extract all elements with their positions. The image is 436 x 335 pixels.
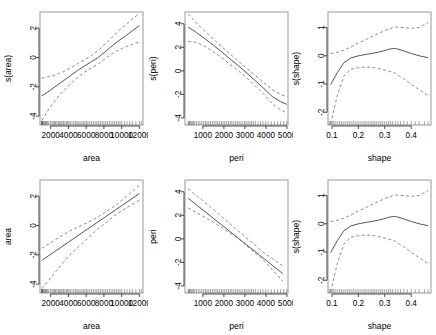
panel-r2c2-fit xyxy=(188,198,283,273)
y-tick-label: -1 xyxy=(317,248,326,256)
panel-r1c3-upper-ci xyxy=(331,22,429,53)
y-tick-label: -4 xyxy=(29,112,38,120)
rug-marks xyxy=(42,121,141,125)
y-axis-title: s(shape) xyxy=(291,220,301,254)
y-tick-label: -4 xyxy=(174,114,183,122)
panel-r1c2-fit xyxy=(188,27,287,104)
x-tick-label: 3000 xyxy=(236,299,255,308)
panel-r2c1: 20004000600080001000012000-4-202areaarea xyxy=(0,168,148,335)
x-tick-label: 0.4 xyxy=(405,299,417,308)
x-axis-title: shape xyxy=(368,153,392,163)
y-tick-label: 4 xyxy=(174,189,183,194)
rug-marks xyxy=(329,121,428,125)
y-axis-title: s(shape) xyxy=(291,52,301,86)
panel-r2c1-upper-ci xyxy=(42,185,140,248)
x-axis-title: area xyxy=(83,321,100,331)
x-tick-label: 3000 xyxy=(236,131,255,140)
y-tick-label: 2 xyxy=(29,25,38,30)
y-tick-label: -4 xyxy=(29,280,38,288)
x-tick-label: 0.2 xyxy=(353,131,365,140)
x-axis-title: peri xyxy=(229,321,243,331)
panel-r2c3-canvas: 0.10.20.30.4-2-101shapes(shape) xyxy=(288,168,436,335)
panel-r2c3-upper-ci xyxy=(331,190,429,221)
x-tick-label: 4000 xyxy=(59,299,78,308)
panel-r1c2-lower-ci xyxy=(188,41,287,113)
panel-r1c3: 0.10.20.30.4-2-101shapes(shape) xyxy=(288,0,436,167)
panel-r1c1-canvas: 20004000600080001000012000-4-202areas(ar… xyxy=(0,0,148,167)
y-tick-label: 0 xyxy=(29,223,38,228)
panel-r1c2-upper-ci xyxy=(188,14,287,97)
y-tick-label: 0 xyxy=(317,53,326,58)
x-tick-label: 4000 xyxy=(257,299,276,308)
plot-box xyxy=(40,12,143,125)
panel-r1c2-canvas: 10002000300040005000-4-2024peris(peri) xyxy=(145,0,293,167)
y-tick-label: -2 xyxy=(174,90,183,98)
x-tick-label: 2000 xyxy=(42,299,61,308)
y-tick-label: 1 xyxy=(317,25,326,30)
y-tick-label: 2 xyxy=(174,213,183,218)
y-tick-label: -4 xyxy=(174,282,183,290)
x-tick-label: 0.1 xyxy=(326,299,338,308)
figure-panel-grid: 20004000600080001000012000-4-202areas(ar… xyxy=(0,0,436,335)
y-tick-label: 4 xyxy=(174,21,183,26)
y-axis-title: peri xyxy=(148,229,158,243)
panel-r2c2-upper-ci xyxy=(188,189,283,266)
rug-marks xyxy=(329,289,428,293)
x-axis-title: area xyxy=(83,153,100,163)
x-tick-label: 4000 xyxy=(59,131,78,140)
rug-marks xyxy=(188,121,286,125)
y-tick-label: -2 xyxy=(317,108,326,116)
panel-r1c3-lower-ci xyxy=(331,67,429,124)
x-tick-label: 0.2 xyxy=(353,299,365,308)
y-tick-label: -2 xyxy=(29,251,38,259)
panel-r1c1-lower-ci xyxy=(42,42,140,121)
y-tick-label: -2 xyxy=(29,83,38,91)
x-tick-label: 4000 xyxy=(257,131,276,140)
y-tick-label: 2 xyxy=(29,193,38,198)
panel-r1c1-fit xyxy=(42,26,140,96)
y-tick-label: -2 xyxy=(317,276,326,284)
x-tick-label: 6000 xyxy=(77,131,96,140)
x-tick-label: 2000 xyxy=(215,131,234,140)
x-tick-label: 1000 xyxy=(194,299,213,308)
rug-marks xyxy=(42,289,141,293)
panel-r2c3-lower-ci xyxy=(331,235,429,292)
y-axis-title: area xyxy=(3,228,13,245)
x-tick-label: 0.3 xyxy=(379,131,391,140)
plot-box xyxy=(185,12,288,125)
panel-r2c2-canvas: 10002000300040005000-4-2024periperi xyxy=(145,168,293,335)
y-tick-label: 0 xyxy=(317,221,326,226)
x-tick-label: 1000 xyxy=(194,131,213,140)
panel-r2c3-fit xyxy=(331,216,429,252)
y-tick-label: 1 xyxy=(317,193,326,198)
rug-marks xyxy=(188,289,286,293)
y-tick-label: 2 xyxy=(174,45,183,50)
plot-box xyxy=(40,180,143,293)
panel-r2c3: 0.10.20.30.4-2-101shapes(shape) xyxy=(288,168,436,335)
panel-r1c2: 10002000300040005000-4-2024peris(peri) xyxy=(145,0,293,167)
panel-r2c1-lower-ci xyxy=(42,200,140,288)
x-axis-title: peri xyxy=(229,153,243,163)
y-tick-label: 0 xyxy=(174,68,183,73)
y-tick-label: 0 xyxy=(174,236,183,241)
y-axis-title: s(area) xyxy=(3,55,13,82)
x-tick-label: 0.4 xyxy=(405,131,417,140)
x-tick-label: 6000 xyxy=(77,299,96,308)
x-tick-label: 2000 xyxy=(215,299,234,308)
panel-r1c1: 20004000600080001000012000-4-202areas(ar… xyxy=(0,0,148,167)
x-tick-label: 0.3 xyxy=(379,299,391,308)
panel-r1c3-canvas: 0.10.20.30.4-2-101shapes(shape) xyxy=(288,0,436,167)
y-tick-label: -1 xyxy=(317,80,326,88)
panel-r2c2-lower-ci xyxy=(188,208,283,281)
x-axis-title: shape xyxy=(368,321,392,331)
y-axis-title: s(peri) xyxy=(148,56,158,80)
y-tick-label: -2 xyxy=(174,258,183,266)
x-tick-label: 0.1 xyxy=(326,131,338,140)
x-tick-label: 2000 xyxy=(42,131,61,140)
panel-r2c1-fit xyxy=(42,194,140,261)
y-tick-label: 0 xyxy=(29,55,38,60)
panel-r1c3-fit xyxy=(331,48,429,84)
panel-r2c2: 10002000300040005000-4-2024periperi xyxy=(145,168,293,335)
panel-r2c1-canvas: 20004000600080001000012000-4-202areaarea xyxy=(0,168,148,335)
